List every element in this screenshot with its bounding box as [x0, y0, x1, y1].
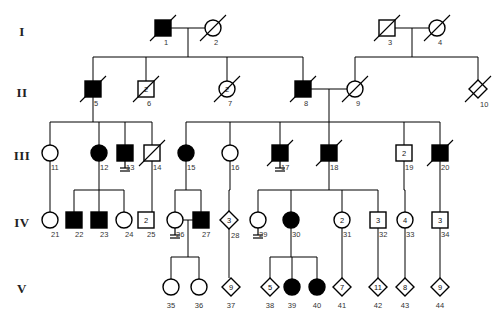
individual-number-18: 18 — [330, 163, 338, 172]
individual-39[interactable]: 39 — [284, 279, 300, 310]
individual-16[interactable]: 16 — [222, 145, 239, 172]
individual-31[interactable]: 231 — [334, 212, 351, 239]
individual-number-6: 6 — [147, 99, 151, 108]
individual-41[interactable]: 741 — [333, 278, 351, 310]
symbol-square-male[interactable] — [91, 212, 107, 228]
individual-13[interactable]: 13 — [117, 145, 134, 172]
sibling-count-19: 2 — [402, 149, 406, 158]
symbol-circle-female[interactable] — [163, 279, 179, 295]
individual-number-32: 32 — [379, 230, 387, 239]
individual-number-9: 9 — [356, 99, 360, 108]
individual-number-30: 30 — [292, 230, 300, 239]
symbol-square-male[interactable] — [193, 212, 209, 228]
individual-15[interactable]: 15 — [178, 145, 195, 172]
symbol-circle-female[interactable] — [191, 279, 207, 295]
symbol-circle-female[interactable] — [178, 145, 194, 161]
symbol-circle-female[interactable] — [42, 145, 58, 161]
symbol-circle-female[interactable] — [250, 212, 266, 228]
individual-number-29: 29 — [259, 230, 267, 239]
symbol-circle-female[interactable] — [284, 279, 300, 295]
generation-label-II: II — [16, 85, 27, 100]
individual-11[interactable]: 11 — [42, 145, 59, 172]
generation-label-III: III — [14, 148, 31, 163]
individual-44[interactable]: 944 — [431, 278, 449, 310]
sibling-count-44: 9 — [438, 283, 442, 292]
individual-30[interactable]: 30 — [283, 212, 300, 239]
individual-4[interactable]: 4 — [424, 15, 450, 47]
sibling-count-32: 3 — [376, 216, 380, 225]
individual-34[interactable]: 334 — [432, 212, 449, 239]
symbol-square-male[interactable] — [66, 212, 82, 228]
individual-23[interactable]: 23 — [91, 212, 108, 239]
individual-number-28: 28 — [231, 231, 239, 240]
individual-number-26: 26 — [176, 230, 184, 239]
individual-number-24: 24 — [125, 230, 133, 239]
individual-19[interactable]: 219 — [396, 145, 413, 172]
individual-number-27: 27 — [202, 230, 210, 239]
symbol-circle-female[interactable] — [309, 279, 325, 295]
individual-number-10: 10 — [480, 100, 488, 109]
individual-17[interactable]: 17 — [267, 140, 293, 172]
individual-10[interactable]: 10 — [465, 76, 491, 109]
individual-21[interactable]: 21 — [42, 212, 59, 239]
individual-37[interactable]: 937 — [222, 278, 240, 310]
symbol-circle-female[interactable] — [91, 145, 107, 161]
sibling-count-38: 5 — [268, 283, 272, 292]
individual-3[interactable]: 3 — [374, 15, 400, 47]
symbol-circle-female[interactable] — [42, 212, 58, 228]
individual-number-21: 21 — [51, 230, 59, 239]
individual-40[interactable]: 40 — [309, 279, 325, 310]
individual-32[interactable]: 332 — [370, 212, 387, 239]
individual-number-16: 16 — [231, 163, 239, 172]
individual-42[interactable]: 1142 — [369, 278, 387, 310]
individual-8[interactable]: 8 — [290, 76, 316, 108]
symbol-circle-female[interactable] — [116, 212, 132, 228]
individual-2[interactable]: 2 — [200, 15, 226, 47]
individual-28[interactable]: 328 — [220, 211, 239, 240]
individual-29[interactable]: 29 — [250, 212, 267, 239]
individual-number-43: 43 — [401, 301, 409, 310]
symbol-circle-female[interactable] — [283, 212, 299, 228]
individual-number-42: 42 — [374, 301, 382, 310]
sibling-count-28: 3 — [227, 216, 231, 225]
individual-7[interactable]: 27 — [214, 76, 240, 108]
individual-1[interactable]: 1 — [150, 15, 176, 47]
individual-number-22: 22 — [75, 230, 83, 239]
sibling-count-25: 2 — [144, 216, 148, 225]
generation-label-group: IIIIIIIVV — [14, 24, 31, 296]
individual-6[interactable]: 26 — [133, 76, 159, 108]
individual-number-19: 19 — [405, 163, 413, 172]
symbol-circle-female[interactable] — [222, 145, 238, 161]
individual-27[interactable]: 27 — [193, 212, 210, 239]
sibling-count-34: 3 — [438, 216, 442, 225]
individual-35[interactable]: 35 — [163, 279, 179, 310]
individual-number-12: 12 — [100, 163, 108, 172]
individual-24[interactable]: 24 — [116, 212, 133, 239]
individual-33[interactable]: 433 — [397, 212, 414, 239]
individual-number-39: 39 — [288, 301, 296, 310]
individual-26[interactable]: 26 — [167, 212, 184, 239]
individual-25[interactable]: 225 — [138, 212, 155, 239]
symbol-square-male[interactable] — [117, 145, 133, 161]
individual-number-15: 15 — [187, 163, 195, 172]
individual-number-7: 7 — [228, 99, 232, 108]
individual-number-23: 23 — [100, 230, 108, 239]
symbol-circle-female[interactable] — [167, 212, 183, 228]
individual-number-37: 37 — [227, 301, 235, 310]
individual-22[interactable]: 22 — [66, 212, 83, 239]
individual-symbol-group: 1234526278910111213141516171821920212223… — [42, 15, 491, 310]
individual-38[interactable]: 538 — [261, 278, 279, 310]
individual-number-17: 17 — [281, 163, 289, 172]
individual-43[interactable]: 843 — [396, 278, 414, 310]
individual-number-4: 4 — [438, 38, 442, 47]
pedigree-svg: IIIIIIIVV 123452627891011121314151617182… — [0, 0, 499, 322]
individual-9[interactable]: 9 — [342, 76, 368, 108]
individual-number-41: 41 — [338, 301, 346, 310]
individual-36[interactable]: 36 — [191, 279, 207, 310]
individual-number-11: 11 — [51, 163, 59, 172]
individual-12[interactable]: 12 — [91, 145, 108, 172]
individual-number-13: 13 — [126, 163, 134, 172]
individual-number-40: 40 — [313, 301, 321, 310]
sibling-count-41: 7 — [340, 283, 344, 292]
individual-number-33: 33 — [406, 230, 414, 239]
